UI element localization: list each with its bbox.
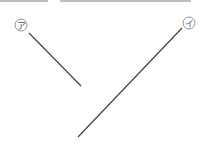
line-a bbox=[29, 33, 81, 86]
diagram-canvas: ア イ bbox=[0, 0, 208, 149]
label-i-text: イ bbox=[185, 19, 194, 29]
line-i bbox=[78, 28, 182, 137]
label-a: ア bbox=[15, 19, 27, 31]
label-a-text: ア bbox=[17, 21, 26, 31]
label-i: イ bbox=[183, 17, 195, 29]
